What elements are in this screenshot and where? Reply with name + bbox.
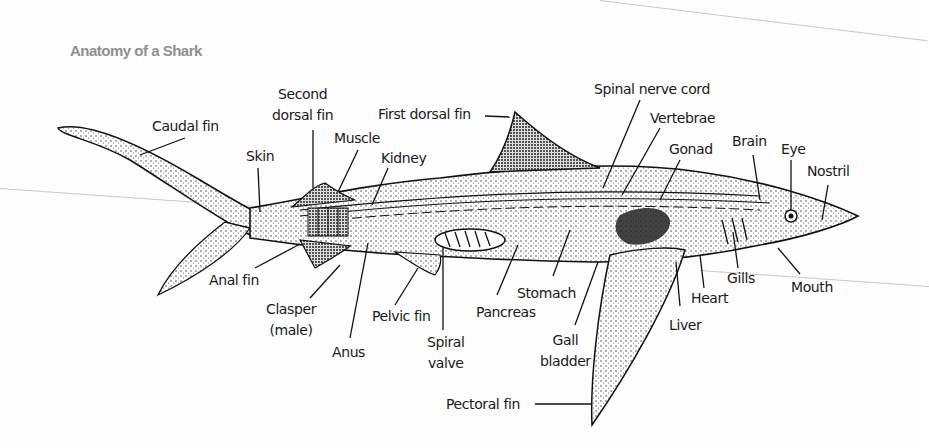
label-nostril: Nostril xyxy=(807,163,850,180)
pelvic-fin-shape xyxy=(395,252,441,275)
caudal-fin-shape xyxy=(58,127,262,235)
label-muscle: Muscle xyxy=(334,130,380,147)
spiral-valve-shape xyxy=(435,229,505,251)
label-pelvic-fin: Pelvic fin xyxy=(372,308,430,325)
label-spiral-valve-line1: Spiral xyxy=(427,334,465,351)
label-stomach: Stomach xyxy=(517,285,576,302)
label-liver: Liver xyxy=(669,317,701,334)
label-pancreas: Pancreas xyxy=(476,304,536,321)
label-gonad: Gonad xyxy=(669,141,713,158)
label-gall-bladder-line2: bladder xyxy=(540,353,591,370)
label-gall-bladder: Gall bladder xyxy=(540,332,591,370)
label-kidney: Kidney xyxy=(381,150,426,167)
label-mouth: Mouth xyxy=(791,279,833,296)
label-caudal-fin: Caudal fin xyxy=(152,118,219,135)
label-anus: Anus xyxy=(332,344,365,361)
label-pectoral-fin: Pectoral fin xyxy=(446,396,520,413)
label-eye: Eye xyxy=(781,141,806,158)
label-spiral-valve-line2: valve xyxy=(427,355,465,372)
label-second-dorsal-fin-line1: Second xyxy=(272,86,333,103)
label-heart: Heart xyxy=(691,290,728,307)
label-anal-fin: Anal fin xyxy=(209,272,259,289)
label-second-dorsal-fin: Second dorsal fin xyxy=(272,86,333,124)
label-spiral-valve: Spiral valve xyxy=(427,334,465,372)
label-brain: Brain xyxy=(732,133,767,150)
label-gall-bladder-line1: Gall xyxy=(540,332,591,349)
label-clasper-line1: Clasper xyxy=(266,301,316,318)
label-spinal-nerve-cord: Spinal nerve cord xyxy=(594,81,710,98)
label-gills: Gills xyxy=(727,270,755,287)
label-second-dorsal-fin-line2: dorsal fin xyxy=(272,107,333,124)
label-clasper-line2: (male) xyxy=(266,322,316,339)
label-skin: Skin xyxy=(246,148,274,165)
first-dorsal-fin-shape xyxy=(490,112,600,172)
pectoral-fin-shape xyxy=(592,248,685,425)
label-clasper: Clasper (male) xyxy=(266,301,316,339)
label-first-dorsal-fin: First dorsal fin xyxy=(378,106,471,123)
label-vertebrae: Vertebrae xyxy=(650,110,715,127)
